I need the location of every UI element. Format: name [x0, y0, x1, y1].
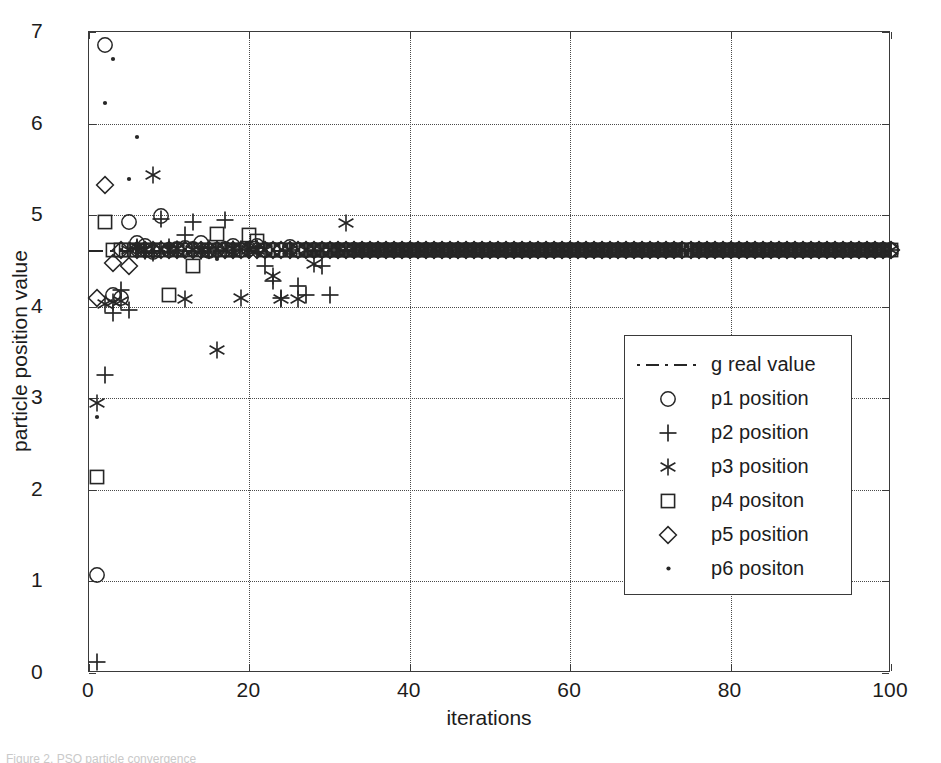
legend-symbol-dashdot-line-icon — [625, 348, 711, 381]
legend-symbol-square-icon — [625, 484, 711, 517]
legend-label: p1 position — [711, 387, 809, 410]
data-point-asterisk — [95, 294, 115, 314]
y-axis-title: particle position value — [8, 250, 32, 452]
data-point-square — [88, 468, 106, 486]
y-tick-mark — [882, 32, 889, 33]
x-tick-mark — [570, 32, 571, 39]
legend-item[interactable]: p1 position — [625, 382, 851, 415]
x-tick-mark — [570, 664, 571, 671]
data-point-plus — [215, 210, 235, 230]
y-tick-label: 7 — [3, 19, 43, 43]
data-point-plus — [95, 365, 115, 385]
x-tick-mark — [410, 664, 411, 671]
data-point-dot — [134, 134, 141, 141]
y-tick-mark — [882, 215, 889, 216]
data-point-square — [248, 232, 266, 250]
data-point-plus — [271, 288, 291, 308]
legend-label: g real value — [711, 353, 816, 376]
x-tick-mark — [410, 32, 411, 39]
figure-scatter-particle-convergence: particle position value iterations 01234… — [0, 0, 941, 763]
x-tick-mark — [249, 664, 250, 671]
x-tick-label: 60 — [539, 678, 599, 702]
y-tick-mark — [882, 673, 889, 674]
y-tick-mark — [89, 490, 96, 491]
y-tick-label: 6 — [3, 111, 43, 135]
legend-item[interactable]: p6 positon — [625, 552, 851, 585]
x-axis-title: iterations — [446, 706, 531, 730]
data-point-diamond — [119, 256, 139, 276]
x-tick-mark — [731, 664, 732, 671]
legend-label: p4 positon — [711, 489, 804, 512]
data-point-circle — [136, 237, 154, 255]
legend-symbol-dot-icon — [625, 552, 711, 585]
x-tick-label: 0 — [58, 678, 118, 702]
gridline-horizontal — [89, 307, 889, 308]
gridline-vertical — [410, 32, 411, 671]
data-point-plus — [119, 300, 139, 320]
data-point-circle — [224, 237, 242, 255]
y-tick-mark — [89, 32, 96, 33]
legend-label: p3 position — [711, 455, 809, 478]
dashdot-line-icon — [637, 364, 699, 366]
legend-item[interactable]: p3 position — [625, 450, 851, 483]
data-point-square — [160, 286, 178, 304]
data-point-diamond — [103, 253, 123, 273]
gridline-horizontal — [89, 215, 889, 216]
legend-item[interactable]: p5 position — [625, 518, 851, 551]
legend-label: p5 position — [711, 523, 809, 546]
y-tick-mark — [882, 581, 889, 582]
figure-caption: Figure 2. PSO particle convergence — [6, 752, 476, 763]
y-tick-label: 3 — [3, 385, 43, 409]
y-tick-label: 2 — [3, 477, 43, 501]
data-point-circle — [281, 238, 299, 256]
x-tick-label: 20 — [218, 678, 278, 702]
data-point-plus — [151, 209, 171, 229]
data-point-plus — [296, 285, 316, 305]
legend-label: p6 positon — [711, 557, 804, 580]
y-tick-mark — [89, 581, 96, 582]
data-point-dot — [94, 413, 101, 420]
y-tick-label: 5 — [3, 202, 43, 226]
data-point-diamond — [87, 288, 107, 308]
data-point-dot — [102, 99, 109, 106]
x-tick-label: 80 — [700, 678, 760, 702]
data-point-circle — [176, 239, 194, 257]
y-tick-label: 1 — [3, 568, 43, 592]
legend[interactable]: g real value p1 position p2 position p3 … — [624, 335, 852, 595]
y-tick-mark — [89, 124, 96, 125]
x-tick-label: 100 — [860, 678, 920, 702]
legend-item[interactable]: p2 position — [625, 416, 851, 449]
data-point-circle — [128, 234, 146, 252]
x-tick-mark — [891, 664, 892, 671]
y-tick-label: 4 — [3, 294, 43, 318]
x-tick-mark — [249, 32, 250, 39]
data-point-plus — [199, 238, 219, 258]
legend-item[interactable]: g real value — [625, 348, 851, 381]
y-tick-mark — [882, 398, 889, 399]
data-point-asterisk — [231, 288, 251, 308]
gridline-vertical — [570, 32, 571, 671]
data-point-asterisk — [207, 340, 227, 360]
g-real-value-reference-line — [89, 250, 889, 252]
data-point-plus — [143, 243, 163, 263]
data-point-plus — [87, 652, 107, 672]
legend-item[interactable]: p4 positon — [625, 484, 851, 517]
data-point-plus — [288, 276, 308, 296]
data-point-plus — [247, 238, 267, 258]
y-tick-mark — [89, 398, 96, 399]
legend-symbol-plus-icon — [625, 416, 711, 449]
data-point-circle — [96, 36, 114, 54]
data-point-plus — [263, 271, 283, 291]
y-tick-mark — [89, 307, 96, 308]
data-point-asterisk — [87, 393, 107, 413]
gridline-vertical — [249, 32, 250, 671]
x-tick-mark — [89, 32, 90, 39]
data-point-circle — [104, 286, 122, 304]
data-point-circle — [192, 234, 210, 252]
gridline-horizontal — [89, 124, 889, 125]
data-point-square — [184, 257, 202, 275]
x-tick-mark — [89, 664, 90, 671]
data-point-plus — [312, 256, 332, 276]
data-point-asterisk — [127, 237, 147, 257]
legend-label: p2 position — [711, 421, 809, 444]
